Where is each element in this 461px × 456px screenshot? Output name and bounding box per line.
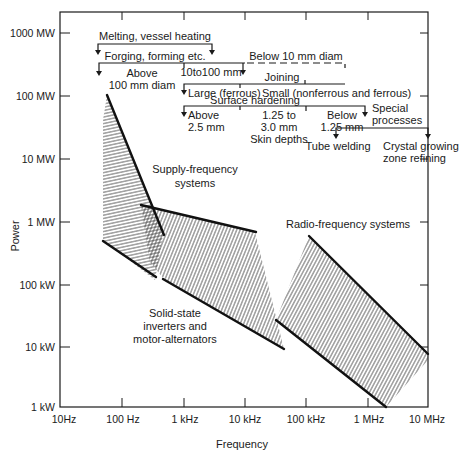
solid-state-label: Solid-state	[149, 307, 201, 319]
skin-depth-label: 3.0 mm	[261, 121, 298, 133]
10to100mm-label: 10to100 mm	[180, 66, 241, 78]
y-tick-label: 100 kW	[19, 279, 55, 291]
below-1-25mm-label: 1.25 mm	[321, 121, 364, 133]
y-tick-label: 1 MW	[28, 216, 56, 228]
x-tick-label: 1 MHz	[354, 413, 384, 425]
radio-frequency-label: Radio-frequency systems	[286, 218, 411, 230]
skin-depth-label: Skin depths	[250, 133, 308, 145]
above-2-5mm-label: 2.5 mm	[188, 121, 225, 133]
special-processes-label: Special	[372, 102, 408, 114]
x-axis-title: Frequency	[216, 438, 268, 450]
surface-hardening-label: Surface hardening	[210, 94, 300, 106]
x-axis-ticks	[122, 398, 368, 407]
supply-frequency-label: systems	[175, 177, 216, 189]
right-ticks	[420, 33, 428, 347]
skin-depth-label: 1.25 to	[262, 109, 296, 121]
forging-label: Forging, forming etc.	[105, 50, 206, 62]
power-frequency-chart: 1000 MW 100 MW 10 MW 1 MW 100 kW 10 kW 1…	[0, 0, 461, 456]
y-tick-label: 10 MW	[22, 153, 55, 165]
joining-label: Joining	[265, 71, 300, 83]
crystal-growing-label: Crystal growing	[383, 140, 459, 152]
y-tick-label: 1 kW	[31, 401, 55, 413]
x-tick-label: 10 MHz	[409, 413, 445, 425]
solid-state-label: motor-alternators	[133, 333, 217, 345]
x-tick-label: 100 kHz	[287, 413, 326, 425]
tube-welding-label: Tube welding	[305, 140, 370, 152]
y-tick-label: 10 kW	[25, 341, 55, 353]
above-100mm-label: Above	[126, 67, 157, 79]
application-labels: Melting, vessel heating Forging, forming…	[99, 30, 459, 164]
y-tick-label: 100 MW	[16, 90, 55, 102]
below-10mm-label: Below 10 mm diam	[249, 50, 343, 62]
x-tick-labels: 10Hz 100 Hz 1 kHz 10 kHz 100 kHz 1 MHz 1…	[52, 413, 445, 425]
y-tick-label: 1000 MW	[10, 27, 55, 39]
special-processes-label: processes	[372, 114, 423, 126]
above-2-5mm-label: Above	[188, 109, 219, 121]
supply-frequency-label: Supply-frequency	[152, 163, 238, 175]
x-tick-label: 10 kHz	[229, 413, 262, 425]
y-tick-labels: 1000 MW 100 MW 10 MW 1 MW 100 kW 10 kW 1…	[10, 27, 55, 413]
x-tick-label: 100 Hz	[106, 413, 139, 425]
x-tick-label: 1 kHz	[172, 413, 199, 425]
supply-frequency-region	[103, 95, 163, 280]
above-100mm-label: 100 mm diam	[109, 79, 176, 91]
melting-label: Melting, vessel heating	[99, 30, 211, 42]
solid-state-label: inverters and	[143, 320, 207, 332]
crystal-growing-label: zone refining	[383, 152, 446, 164]
top-ticks	[122, 12, 368, 20]
y-axis-ticks	[60, 33, 70, 347]
below-1-25mm-label: Below	[327, 109, 357, 121]
y-axis-title: Power	[9, 220, 21, 252]
x-tick-label: 10Hz	[52, 413, 77, 425]
